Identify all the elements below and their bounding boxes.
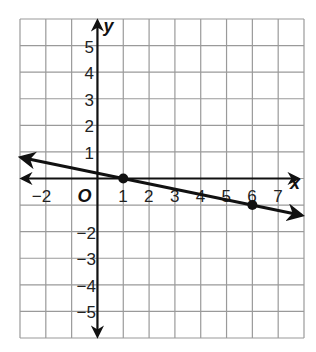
y-tick-label: 1	[84, 144, 93, 163]
x-tick-label: 5	[222, 187, 231, 206]
y-tick-label: −3	[76, 250, 95, 269]
y-tick-label: −5	[76, 303, 95, 322]
graphed-line	[21, 157, 301, 215]
origin-label: O	[77, 186, 91, 206]
x-tick-label: −2	[32, 187, 51, 206]
y-tick-label: −2	[76, 224, 95, 243]
x-axis-label: x	[289, 173, 301, 193]
y-axis-label: y	[102, 16, 114, 36]
data-point	[118, 174, 128, 184]
y-tick-label: 3	[84, 91, 93, 110]
y-tick-label: 5	[84, 38, 93, 57]
y-tick-label: 4	[84, 64, 93, 83]
x-tick-label: 7	[273, 187, 282, 206]
coordinate-plane: xyO−2123456754321−2−3−4−5	[0, 0, 316, 352]
y-tick-label: −4	[76, 277, 95, 296]
y-tick-label: 2	[84, 117, 93, 136]
data-point	[247, 200, 257, 210]
x-tick-label: 1	[118, 187, 127, 206]
x-tick-label: 2	[144, 187, 153, 206]
